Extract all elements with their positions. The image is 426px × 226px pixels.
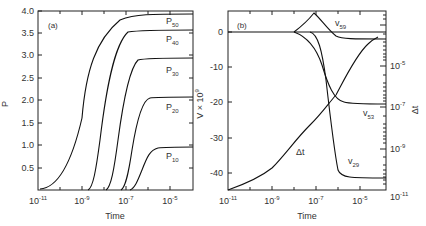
- panel-b-tag: (b): [237, 21, 247, 30]
- label-v53: v53: [363, 108, 375, 120]
- xtick-label: 10-11: [219, 195, 238, 206]
- curve-p10: [130, 147, 193, 190]
- panel-b-xlabel: Time: [297, 211, 317, 221]
- label-dt: Δt: [296, 147, 305, 157]
- right-ytick-label: 10-11: [390, 191, 409, 202]
- curve-p30: [106, 58, 193, 190]
- xtick-label: 10-11: [29, 195, 48, 206]
- ytick-label: 1.0: [21, 140, 34, 150]
- ytick-label: -20: [210, 97, 223, 107]
- xtick-label: 10-5: [352, 195, 368, 206]
- panel-b-ylabel-right: Δt: [410, 105, 420, 114]
- label-v29: v29: [348, 156, 360, 168]
- label-p10: P10: [166, 151, 179, 163]
- ytick-label: -40: [210, 168, 223, 178]
- panel-b-ylabel: V × 109: [194, 89, 205, 119]
- ytick-label: 3.0: [21, 50, 34, 60]
- curve-p20: [121, 97, 193, 190]
- ytick-label: 3.5: [21, 28, 34, 38]
- ytick-label: 0.5: [21, 163, 34, 173]
- ytick-label: 1.5: [21, 118, 34, 128]
- label-p30: P30: [166, 65, 179, 77]
- panel-b-frame: [228, 11, 386, 190]
- label-v59: v59: [335, 18, 347, 30]
- panel-a-xtick-labels: 10-11 10-9 10-7 10-5: [29, 195, 178, 206]
- ytick-label: -10: [210, 62, 223, 72]
- panel-a-curve-labels: P50 P40 P30 P20 P10: [166, 16, 179, 163]
- right-ytick-label: 10-9: [390, 143, 406, 154]
- panel-a-ytick-labels: 4.0 3.5 3.0 2.5 2.0 1.5 1.0 0.5: [21, 6, 34, 173]
- right-ytick-label: 10-7: [390, 101, 406, 112]
- panel-b-ticks: [228, 11, 386, 190]
- panel-b-curves: [228, 13, 386, 190]
- panel-b: 0 -10 -20 -30 -40 V × 109 10-5 10-7 10-9…: [194, 11, 420, 221]
- panel-a-tag: (a): [48, 21, 58, 30]
- right-ytick-label: 10-5: [390, 60, 406, 71]
- ytick-label: 2.5: [21, 73, 34, 83]
- label-p50: P50: [166, 16, 179, 28]
- ytick-label: 2.0: [21, 95, 34, 105]
- ytick-label: 4.0: [21, 6, 34, 16]
- curve-v53: [294, 32, 386, 104]
- xtick-label: 10-7: [118, 195, 134, 206]
- panel-b-xtick-labels: 10-11 10-9 10-7 10-5: [219, 195, 368, 206]
- panel-a-ylabel: P: [0, 101, 10, 107]
- panel-b-ytick-labels: 0 -10 -20 -30 -40: [210, 27, 223, 178]
- xtick-label: 10-7: [308, 195, 324, 206]
- panel-b-right-ytick-labels: 10-5 10-7 10-9 10-11: [390, 60, 409, 202]
- ytick-label: -30: [210, 133, 223, 143]
- panel-a-xlabel: Time: [105, 211, 125, 221]
- xtick-label: 10-9: [264, 195, 280, 206]
- figure: 4.0 3.5 3.0 2.5 2.0 1.5 1.0 0.5 P 10-11 …: [0, 0, 426, 226]
- panel-a: 4.0 3.5 3.0 2.5 2.0 1.5 1.0 0.5 P 10-11 …: [0, 6, 193, 221]
- ytick-label: 0: [218, 27, 223, 37]
- label-p20: P20: [166, 102, 179, 114]
- xtick-label: 10-5: [162, 195, 178, 206]
- xtick-label: 10-9: [74, 195, 90, 206]
- label-p40: P40: [166, 34, 179, 46]
